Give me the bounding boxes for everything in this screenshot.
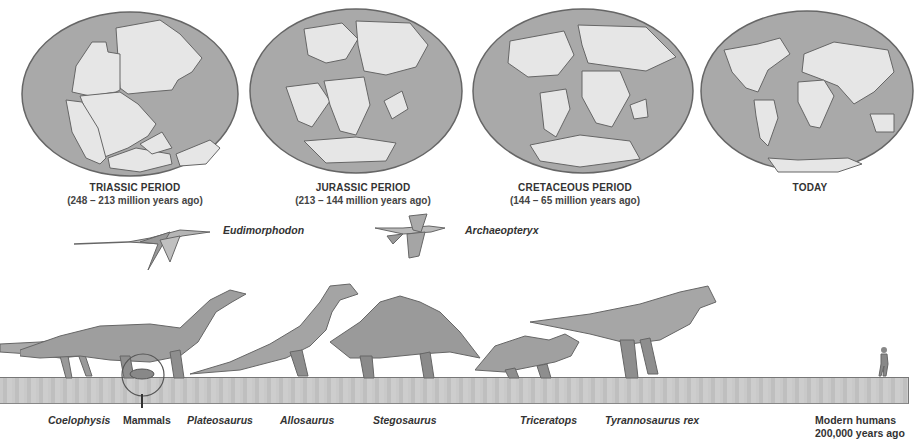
globe-jurassic <box>246 5 466 175</box>
period-label-today: TODAY <box>750 181 870 194</box>
period-label-jurassic: JURASSIC PERIOD (213 – 144 million years… <box>258 181 468 207</box>
tyrannosaurus-illustration <box>530 284 720 380</box>
label-coelophysis: Coelophysis <box>48 414 110 426</box>
period-range: (248 – 213 million years ago) <box>30 194 240 207</box>
period-range: (144 – 65 million years ago) <box>470 194 680 207</box>
mammal-highlight-circle <box>120 352 166 398</box>
mammal-pointer-arrow <box>141 394 143 408</box>
label-modern-humans: Modern humans 200,000 years ago <box>815 414 905 440</box>
period-label-triassic: TRIASSIC PERIOD (248 – 213 million years… <box>30 181 240 207</box>
stegosaurus-illustration <box>320 292 485 380</box>
label-triceratops: Triceratops <box>520 414 577 426</box>
label-allosaurus: Allosaurus <box>280 414 334 426</box>
period-title: TODAY <box>750 181 870 194</box>
globe-cretaceous <box>470 5 696 175</box>
period-label-cretaceous: CRETACEOUS PERIOD (144 – 65 million year… <box>470 181 680 207</box>
period-title: CRETACEOUS PERIOD <box>470 181 680 194</box>
modern-humans-name: Modern humans <box>815 414 905 427</box>
label-eudimorphodon: Eudimorphodon <box>223 224 304 236</box>
label-tyrannosaurus-rex: Tyrannosaurus rex <box>605 414 699 426</box>
archaeopteryx-illustration <box>373 212 453 262</box>
modern-humans-date: 200,000 years ago <box>815 427 905 440</box>
label-plateosaurus: Plateosaurus <box>187 414 253 426</box>
label-archaeopteryx: Archaeopteryx <box>465 224 539 236</box>
period-range: (213 – 144 million years ago) <box>258 194 468 207</box>
period-title: TRIASSIC PERIOD <box>30 181 240 194</box>
globe-triassic <box>20 8 240 178</box>
globe-today <box>698 8 916 174</box>
label-mammals: Mammals <box>123 414 171 426</box>
modern-human-illustration <box>876 346 892 378</box>
period-title: JURASSIC PERIOD <box>258 181 468 194</box>
eudimorphodon-illustration <box>70 222 220 272</box>
label-stegosaurus: Stegosaurus <box>373 414 437 426</box>
